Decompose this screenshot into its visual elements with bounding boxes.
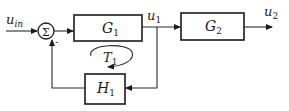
output-label: u2 (264, 4, 278, 21)
minus-sign: - (55, 36, 58, 47)
block-diagram: uin Σ - G1 u1 G2 u2 H1 T1 (0, 0, 289, 111)
input-label: uin (6, 12, 23, 29)
feedback-return-arrow (52, 40, 85, 88)
loop-label: T1 (103, 50, 117, 67)
u1-label: u1 (147, 8, 161, 25)
sigma-symbol: Σ (42, 26, 50, 39)
